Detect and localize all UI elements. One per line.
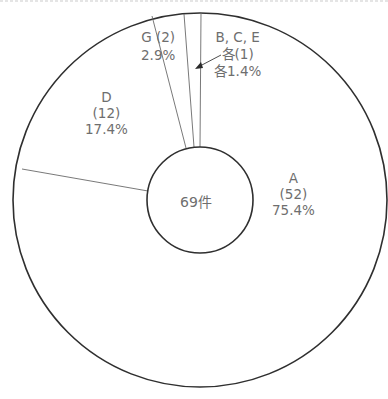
label-d-name: D bbox=[85, 90, 128, 105]
label-d-count: (12) bbox=[85, 106, 128, 121]
label-a-name: A bbox=[272, 171, 315, 186]
label-d-percent: 17.4% bbox=[85, 122, 128, 137]
label-bce-name: B, C, E bbox=[214, 30, 261, 45]
label-g-percent: 2.9% bbox=[141, 48, 175, 63]
label-bce-count: 各(1) bbox=[214, 47, 261, 62]
label-a: A (52) 75.4% bbox=[272, 171, 315, 218]
label-d: D (12) 17.4% bbox=[85, 90, 128, 137]
label-bce-percent: 各1.4% bbox=[214, 64, 261, 79]
label-bce: B, C, E 各(1) 各1.4% bbox=[214, 30, 261, 79]
label-a-count: (52) bbox=[272, 187, 315, 202]
label-g: G (2) 2.9% bbox=[141, 30, 175, 63]
label-g-name: G (2) bbox=[141, 30, 175, 45]
label-a-percent: 75.4% bbox=[272, 203, 315, 218]
center-total-label: 69件 bbox=[180, 191, 212, 211]
